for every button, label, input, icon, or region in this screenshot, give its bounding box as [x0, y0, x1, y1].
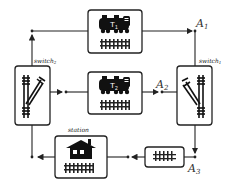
- train-2-node: T2: [88, 72, 142, 114]
- point-a3-label: A3: [187, 162, 201, 176]
- station-label: station: [68, 126, 89, 133]
- station-node: [55, 136, 107, 178]
- switch-2-node: [15, 66, 50, 125]
- track-node: [145, 147, 184, 167]
- point-a1-label: A1: [195, 17, 208, 31]
- train-1-node: T1: [88, 10, 142, 53]
- railway-diagram: T1 T2 switch2: [0, 0, 236, 189]
- switch-1-node: [177, 66, 212, 125]
- svg-text:switch2: switch2: [34, 57, 57, 65]
- point-a2-label: A2: [155, 78, 169, 92]
- svg-text:switch1: switch1: [199, 57, 221, 65]
